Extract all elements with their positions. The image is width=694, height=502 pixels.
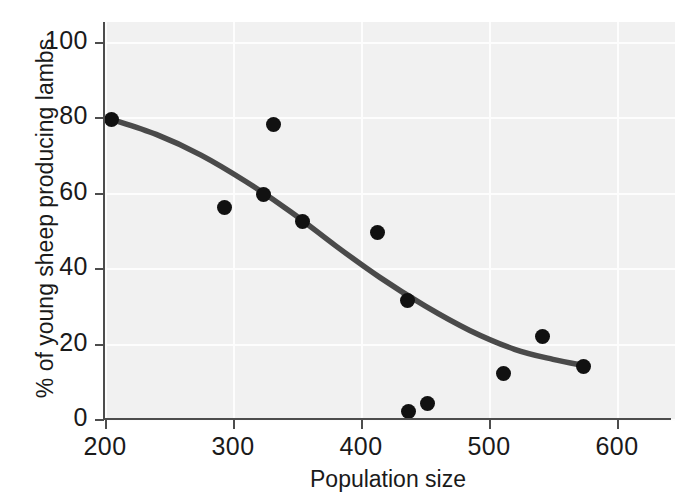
data-point [370,225,385,240]
y-axis-line [103,22,105,420]
x-tick-label: 500 [444,432,534,461]
y-tick-label: 40 [0,252,88,281]
x-tick-label: 300 [188,432,278,461]
gridline-horizontal [105,42,675,44]
data-point [496,366,511,381]
y-tick-label: 60 [0,177,88,206]
y-tick-label: 100 [0,26,88,55]
gridline-horizontal [105,268,675,270]
y-axis-title: % of young sheep producing lambs [32,9,59,429]
x-tick [361,420,363,429]
x-tick-label: 200 [60,432,150,461]
y-tick [95,117,104,119]
x-tick [233,420,235,429]
data-point [401,404,416,419]
plot-area [105,22,675,419]
gridline-horizontal [105,344,675,346]
y-tick [95,193,104,195]
y-tick [95,419,104,421]
gridline-horizontal [105,193,675,195]
x-axis-title: Population size [103,466,673,493]
x-tick-label: 600 [572,432,662,461]
data-point [217,200,232,215]
chart-figure: Population size % of young sheep produci… [0,0,694,502]
data-point [400,293,415,308]
gridline-vertical [361,22,363,419]
gridline-vertical [489,22,491,419]
y-tick [95,268,104,270]
x-tick-label: 400 [316,432,406,461]
y-tick-label: 80 [0,101,88,130]
data-point [104,112,119,127]
y-tick-label: 20 [0,328,88,357]
x-tick [617,420,619,429]
data-point [295,214,310,229]
x-tick [489,420,491,429]
data-point [576,359,591,374]
gridline-vertical [105,22,107,419]
y-tick-label: 0 [0,403,88,432]
data-point [535,329,550,344]
x-tick [105,420,107,429]
gridline-horizontal [105,117,675,119]
y-tick [95,344,104,346]
gridline-vertical [617,22,619,419]
y-tick [95,42,104,44]
x-axis-line [103,418,671,420]
gridline-vertical [233,22,235,419]
